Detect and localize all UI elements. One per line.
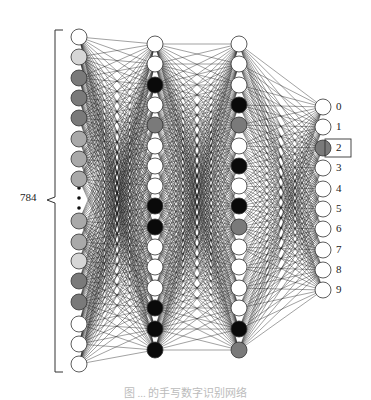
output-label-5: 5 (336, 203, 342, 214)
hidden-2-node-11 (231, 259, 247, 275)
output-node-0 (315, 99, 331, 115)
hidden-1-node-6 (147, 158, 163, 174)
output-node-5 (315, 201, 331, 217)
hidden-2-node-12 (231, 280, 247, 296)
output-label-6: 6 (336, 223, 342, 234)
output-label-3: 3 (336, 162, 342, 173)
hidden-2-node-6 (231, 158, 247, 174)
input-node-1 (71, 49, 87, 65)
input-bracket (47, 30, 63, 372)
figure-caption: 图 ... 的手写数字识别网络 (0, 384, 371, 400)
output-label-2: 2 (336, 142, 342, 153)
input-node-2 (71, 70, 87, 86)
input-node-7 (71, 171, 87, 187)
hidden-1-node-3 (147, 97, 163, 113)
hidden-1-node-2 (147, 77, 163, 93)
output-label-0: 0 (336, 101, 342, 112)
hidden-2-node-15 (231, 342, 247, 358)
output-node-6 (315, 221, 331, 237)
input-node-8 (71, 213, 87, 229)
output-node-2 (315, 140, 331, 156)
hidden-2-node-2 (231, 77, 247, 93)
hidden-1-node-1 (147, 56, 163, 72)
hidden-2-node-14 (231, 321, 247, 337)
input-node-5 (71, 131, 87, 147)
input-size-label: 784 (20, 192, 37, 203)
output-node-1 (315, 119, 331, 135)
hidden-1-node-9 (147, 219, 163, 235)
output-label-7: 7 (336, 244, 342, 255)
hidden-1-node-13 (147, 300, 163, 316)
input-node-11 (71, 273, 87, 289)
input-node-9 (71, 234, 87, 250)
hidden-2-node-3 (231, 97, 247, 113)
connection-edges (79, 37, 323, 364)
input-node-13 (71, 316, 87, 332)
output-label-9: 9 (336, 284, 342, 295)
hidden-1-node-10 (147, 239, 163, 255)
hidden-1-node-0 (147, 36, 163, 52)
hidden-2-node-1 (231, 56, 247, 72)
hidden-2-node-5 (231, 138, 247, 154)
hidden-2-node-0 (231, 36, 247, 52)
hidden-1-node-12 (147, 280, 163, 296)
hidden-1-node-11 (147, 259, 163, 275)
input-node-15 (71, 356, 87, 372)
hidden-1-node-8 (147, 198, 163, 214)
input-node-10 (71, 253, 87, 269)
input-node-12 (71, 294, 87, 310)
input-node-4 (71, 110, 87, 126)
ellipsis-dots (77, 186, 81, 210)
hidden-1-node-4 (147, 117, 163, 133)
input-node-0 (71, 29, 87, 45)
input-node-6 (71, 151, 87, 167)
hidden-1-node-15 (147, 342, 163, 358)
output-label-4: 4 (336, 183, 342, 194)
hidden-2-node-13 (231, 300, 247, 316)
hidden-2-node-8 (231, 198, 247, 214)
hidden-2-node-9 (231, 219, 247, 235)
output-node-9 (315, 282, 331, 298)
input-node-3 (71, 90, 87, 106)
output-label-1: 1 (336, 121, 342, 132)
hidden-1-node-5 (147, 138, 163, 154)
hidden-1-node-14 (147, 321, 163, 337)
hidden-2-node-10 (231, 239, 247, 255)
output-node-4 (315, 181, 331, 197)
output-node-8 (315, 262, 331, 278)
input-node-14 (71, 336, 87, 352)
output-label-8: 8 (336, 264, 342, 275)
hidden-2-node-4 (231, 117, 247, 133)
output-node-3 (315, 160, 331, 176)
output-node-7 (315, 242, 331, 258)
hidden-1-node-7 (147, 178, 163, 194)
hidden-2-node-7 (231, 178, 247, 194)
